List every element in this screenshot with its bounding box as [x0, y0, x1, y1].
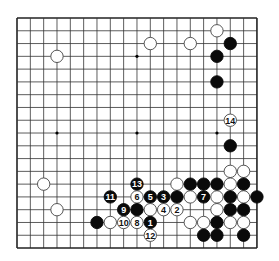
white-stone: 2 [171, 204, 183, 216]
white-stone [197, 216, 209, 228]
move-number-label: 3 [161, 192, 166, 202]
white-stone [211, 191, 223, 203]
white-stone [184, 191, 196, 203]
black-stone: 1 [144, 216, 156, 228]
black-stone [224, 37, 236, 49]
move-number-label: 1 [148, 218, 153, 228]
black-stone: 11 [104, 191, 116, 203]
black-stone: 5 [144, 191, 156, 203]
move-number-label: 14 [225, 116, 235, 126]
white-stone [184, 216, 196, 228]
move-number-label: 7 [201, 192, 206, 202]
white-stone [211, 204, 223, 216]
move-number-label: 5 [148, 192, 153, 202]
move-number-label: 11 [106, 192, 116, 202]
black-stone [224, 191, 236, 203]
white-stone [104, 216, 116, 228]
star-point [135, 131, 138, 134]
move-number-label: 2 [174, 205, 179, 215]
black-stone [131, 204, 143, 216]
black-stone [237, 229, 249, 241]
white-stone: 6 [131, 191, 143, 203]
white-stone [211, 25, 223, 37]
black-stone: 3 [157, 191, 169, 203]
star-point [135, 55, 138, 58]
white-stone [144, 37, 156, 49]
black-stone [237, 204, 249, 216]
black-stone [171, 191, 183, 203]
white-stone [237, 216, 249, 228]
white-stone [224, 178, 236, 190]
move-number-label: 12 [145, 231, 155, 241]
white-stone [224, 165, 236, 177]
black-stone [211, 216, 223, 228]
white-stone [144, 204, 156, 216]
move-number-label: 9 [121, 205, 126, 215]
move-number-label: 13 [132, 179, 142, 189]
black-stone [184, 178, 196, 190]
white-stone [51, 50, 63, 62]
white-stone [51, 204, 63, 216]
white-stone: 4 [157, 204, 169, 216]
white-stone: 10 [117, 216, 129, 228]
black-stone [91, 216, 103, 228]
black-stone [211, 178, 223, 190]
black-stone: 9 [117, 204, 129, 216]
white-stone [224, 216, 236, 228]
black-stone [237, 178, 249, 190]
move-number-label: 8 [134, 218, 139, 228]
black-stone [224, 140, 236, 152]
black-stone [211, 50, 223, 62]
white-stone [171, 178, 183, 190]
star-point [215, 131, 218, 134]
white-stone [237, 165, 249, 177]
white-stone [184, 37, 196, 49]
white-stone: 8 [131, 216, 143, 228]
white-stone [237, 191, 249, 203]
go-board: 1413116537942108112 [0, 0, 279, 261]
move-number-label: 6 [134, 192, 139, 202]
black-stone: 7 [197, 191, 209, 203]
star-point [55, 131, 58, 134]
black-stone [224, 204, 236, 216]
white-stone: 14 [224, 114, 236, 126]
black-stone [251, 191, 263, 203]
go-board-diagram: 1413116537942108112 [0, 0, 279, 261]
white-stone: 12 [144, 229, 156, 241]
white-stone [37, 178, 49, 190]
black-stone: 13 [131, 178, 143, 190]
move-number-label: 4 [161, 205, 166, 215]
black-stone [197, 229, 209, 241]
black-stone [197, 178, 209, 190]
move-number-label: 10 [119, 218, 129, 228]
black-stone [211, 76, 223, 88]
black-stone [211, 229, 223, 241]
